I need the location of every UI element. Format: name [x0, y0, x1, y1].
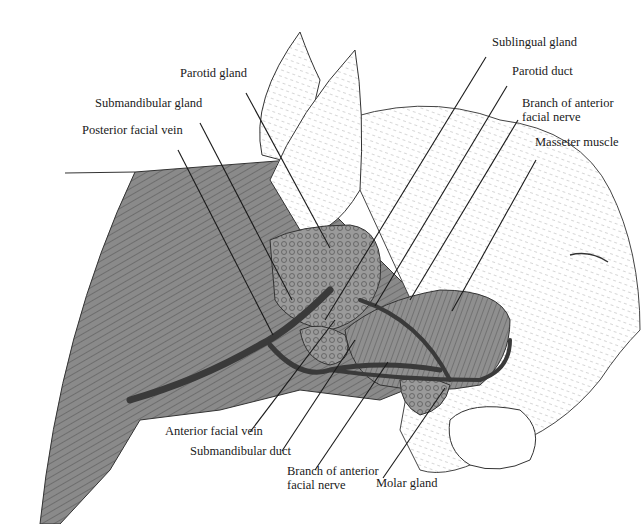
- label-branch-anterior-facial-nerve-bottom-2: facial nerve: [287, 478, 346, 493]
- label-branch-anterior-facial-nerve-top-1: Branch of anterior: [522, 96, 614, 111]
- label-masseter-muscle: Masseter muscle: [535, 135, 619, 150]
- anatomy-diagram: Parotid glandSubmandibular glandPosterio…: [0, 0, 643, 524]
- label-sublingual-gland: Sublingual gland: [492, 35, 577, 50]
- label-molar-gland: Molar gland: [376, 476, 437, 491]
- label-posterior-facial-vein: Posterior facial vein: [82, 123, 183, 138]
- lower-jaw: [449, 407, 535, 469]
- label-submandibular-duct: Submandibular duct: [190, 444, 291, 459]
- label-parotid-gland: Parotid gland: [180, 66, 247, 81]
- label-branch-anterior-facial-nerve-top-2: facial nerve: [522, 110, 581, 125]
- label-branch-anterior-facial-nerve-bottom-1: Branch of anterior: [287, 464, 379, 479]
- label-parotid-duct: Parotid duct: [512, 64, 573, 79]
- label-submandibular-gland: Submandibular gland: [95, 96, 202, 111]
- label-anterior-facial-vein: Anterior facial vein: [165, 424, 263, 439]
